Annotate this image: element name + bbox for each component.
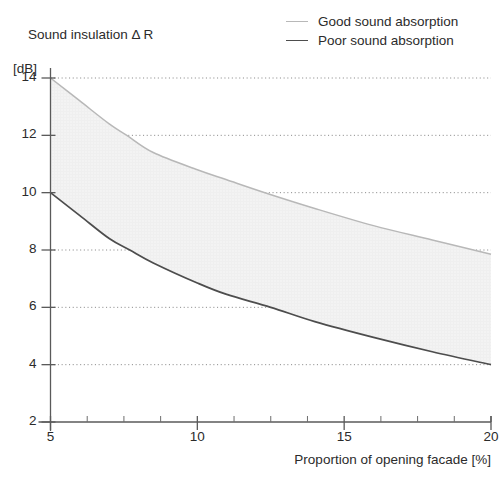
y-tick-label: 2 xyxy=(3,413,37,428)
y-tick-label: 12 xyxy=(3,126,37,141)
plot-area xyxy=(0,0,501,486)
x-tick-label: 20 xyxy=(471,429,501,444)
y-tick-label: 10 xyxy=(3,184,37,199)
y-tick-label: 14 xyxy=(3,69,37,84)
x-tick-label: 15 xyxy=(324,429,364,444)
chart-figure: Sound insulation Δ R [dB] Good sound abs… xyxy=(0,0,501,486)
y-tick-label: 4 xyxy=(3,356,37,371)
chart-svg xyxy=(0,0,501,486)
x-axis-title: Proportion of opening facade [%] xyxy=(0,452,491,467)
x-tick-label: 10 xyxy=(177,429,217,444)
shaded-band xyxy=(51,78,492,365)
y-tick-label: 6 xyxy=(3,298,37,313)
y-tick-label: 8 xyxy=(3,241,37,256)
x-tick-label: 5 xyxy=(31,429,71,444)
